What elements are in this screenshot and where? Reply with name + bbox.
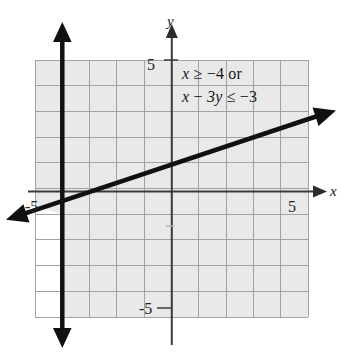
x-axis-tick-5: 5 <box>288 199 296 215</box>
inequality-2-value: −3 <box>240 88 257 105</box>
inequality-2-minus: − <box>189 88 207 105</box>
vertical-line-arrow-down <box>53 328 72 348</box>
y-axis-tick-minus-5: -5 <box>139 301 152 317</box>
inequality-line-1: x ≥ −4 or <box>182 62 257 85</box>
y-axis-tick-5: 5 <box>147 57 155 73</box>
x-axis-label: x <box>330 184 337 199</box>
x-axis-tick-minus-5: -5 <box>25 199 38 215</box>
inequality-1-value: −4 <box>207 65 224 82</box>
inequality-2-term-3y: 3y <box>207 88 223 105</box>
inequality-graph-figure: y x 5 -5 5 -5 x ≥ −4 or x − 3y ≤ −3 <box>0 0 343 354</box>
coordinate-plane-svg <box>0 0 343 354</box>
x-axis-arrowhead <box>313 186 327 198</box>
inequality-annotation: x ≥ −4 or x − 3y ≤ −3 <box>182 62 257 108</box>
diagonal-line-arrow-right <box>313 108 337 126</box>
inequality-2-operator: ≤ <box>222 88 239 105</box>
inequality-connector-or: or <box>224 65 242 82</box>
inequality-line-2: x − 3y ≤ −3 <box>182 85 257 108</box>
vertical-line-arrow-up <box>53 22 72 42</box>
y-axis-label: y <box>167 14 174 29</box>
inequality-1-operator: ≥ <box>189 65 206 82</box>
